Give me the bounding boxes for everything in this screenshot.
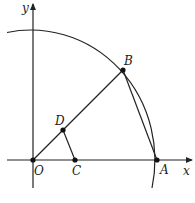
label-B: B: [123, 54, 133, 68]
point-C: [72, 157, 77, 162]
point-D: [60, 127, 65, 132]
label-y-axis: y: [21, 1, 29, 15]
point-A: [154, 157, 159, 162]
segment-DC: [63, 130, 75, 160]
segment-OB: [33, 70, 123, 160]
label-O: O: [34, 164, 44, 178]
point-B: [120, 67, 125, 72]
label-A: A: [159, 163, 169, 177]
diagram-canvas: y x O C A B D: [0, 0, 195, 203]
label-C: C: [72, 164, 81, 178]
label-x-axis: x: [183, 164, 190, 178]
point-O: [30, 157, 35, 162]
label-D: D: [54, 114, 65, 128]
geometry-figure: y x O C A B D: [0, 0, 195, 203]
segment-BA: [123, 70, 157, 160]
